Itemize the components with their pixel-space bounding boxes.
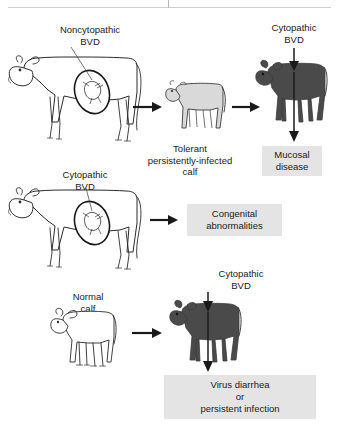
label-cytopathic-bvd-bottom: Cytopathic BVD: [201, 268, 281, 291]
outcome-virus-diarrhea: Virus diarrhea or persistent infection: [164, 375, 316, 419]
label-cytopathic-bvd-top: Cytopathic BVD: [252, 22, 336, 45]
bvd-pathogenesis-diagram: Noncytopathic BVD Cytopathic BVD Toleran…: [0, 0, 339, 428]
header-tick-mark: [168, 0, 169, 8]
normal-white-calf: [51, 308, 116, 366]
label-tolerant-calf: Tolerant persistently-infected calf: [140, 143, 240, 178]
label-noncytopathic-bvd: Noncytopathic BVD: [34, 24, 146, 47]
gray-tolerant-calf: [166, 81, 226, 128]
label-cytopathic-bvd-middle: Cytopathic BVD: [42, 169, 128, 192]
arrow-bottom-calf-to-outcome: [203, 312, 213, 372]
outcome-mucosal-disease: Mucosal disease: [262, 146, 322, 176]
diagram-artwork: [0, 0, 339, 428]
outcome-congenital-abnormalities: Congenital abnormalities: [187, 204, 282, 236]
arrow-normal-calf-to-dark-calf: [132, 328, 162, 338]
header-divider: [8, 7, 331, 8]
arrow-dark-calf-to-mucosal-disease: [289, 72, 299, 142]
uterus-outline: [69, 66, 115, 118]
dark-calf-bottom: [170, 300, 241, 362]
arrow-cytopathic-into-bottom-calf: [203, 292, 213, 312]
dark-calf-top: [256, 60, 327, 122]
arrow-tolerant-calf-to-dark-calf: [232, 102, 260, 112]
label-normal-calf: Normal calf: [52, 291, 124, 314]
pregnant-cow-top: [9, 47, 141, 141]
arrow-cytopathic-into-dark-calf: [289, 48, 299, 71]
pregnant-cow-middle: [9, 188, 141, 269]
arrow-cow-to-tolerant-calf: [133, 102, 162, 112]
arrow-cow-to-congenital: [150, 215, 178, 225]
uterus-outline-middle: [69, 197, 115, 249]
